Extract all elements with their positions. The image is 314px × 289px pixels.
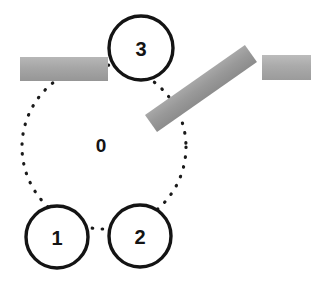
- node-3: 3: [109, 16, 173, 80]
- orbit-center-label: 0: [96, 135, 107, 156]
- node-2: 2: [109, 205, 171, 267]
- diagram-canvas: 0 123: [0, 0, 314, 289]
- node-3-label: 3: [135, 38, 146, 60]
- diagram-scene: 0 123: [0, 0, 314, 289]
- node-1-label: 1: [51, 227, 62, 249]
- node-2-label: 2: [134, 226, 145, 248]
- obstacle-bar-right: [262, 55, 311, 80]
- node-1: 1: [26, 206, 88, 268]
- obstacle-bar-left: [20, 57, 108, 81]
